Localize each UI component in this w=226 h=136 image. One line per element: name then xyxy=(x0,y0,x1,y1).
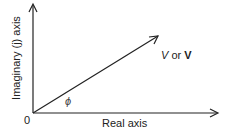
vector-label-or: or xyxy=(168,49,184,61)
phasor-vector-line xyxy=(33,36,158,113)
diagram-lines xyxy=(0,0,226,136)
vector-label: V or V xyxy=(161,49,192,61)
origin-label: 0 xyxy=(24,114,30,126)
real-axis-label: Real axis xyxy=(102,117,147,129)
vector-label-bold: V xyxy=(184,49,191,61)
angle-phi-label: ϕ xyxy=(65,95,71,107)
imaginary-axis-label: Imaginary (j) axis xyxy=(10,16,22,100)
phasor-diagram: Imaginary (j) axis 0 Real axis ϕ V or V xyxy=(0,0,226,136)
